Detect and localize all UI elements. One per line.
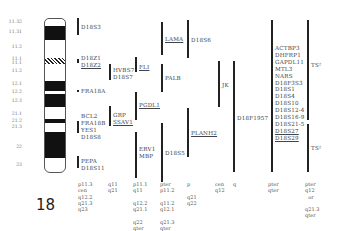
band-label: 12.3: [0, 98, 22, 103]
position-range-label: pter q12 or q21.3 qter: [305, 181, 319, 219]
locus-range-bar: [77, 121, 79, 133]
locus-range-bar: [135, 132, 137, 178]
position-range-label: cen q12: [215, 181, 225, 194]
gene-label: TS²: [311, 62, 321, 68]
position-range-label: q11 q21: [108, 181, 118, 194]
locus-range-bar: [161, 123, 163, 182]
position-range-label: q: [233, 181, 236, 187]
gene-label: D18S29: [275, 135, 299, 141]
locus-range-bar: [307, 20, 309, 120]
locus-point-marker: [77, 90, 79, 92]
position-range-label: p11.1 q11 q12.2 q21.1 q22 qter: [133, 181, 147, 231]
locus-range-bar: [77, 18, 79, 35]
band-q12-3: [45, 94, 65, 107]
gene-label: D18S10: [275, 100, 299, 106]
gene-label: PGDL1: [139, 102, 160, 108]
locus-range-bar: [161, 64, 163, 92]
gene-label: TS²: [311, 145, 321, 151]
gene-label: SSAV1: [113, 119, 133, 125]
gene-label: D18S7: [113, 74, 133, 80]
gene-label: MBP: [139, 153, 153, 159]
locus-range-bar: [77, 156, 79, 168]
band-label: 12.2: [0, 89, 22, 94]
locus-range-bar: [135, 57, 137, 72]
gene-label: D18S16-9: [275, 114, 305, 120]
gene-label: YES1: [81, 127, 97, 133]
locus-range-bar: [271, 20, 273, 172]
band-label: 21.2: [0, 118, 22, 123]
gene-label: D18S8: [81, 134, 101, 140]
gene-label: ERV1: [139, 146, 156, 152]
gene-label: ACTBP3: [275, 45, 300, 51]
position-range-label: pter qter: [268, 181, 279, 194]
gene-label: D18S6: [191, 37, 211, 43]
gene-label: GRP: [113, 112, 126, 118]
band-label: 23: [0, 162, 22, 167]
chromosome-18-ideogram: [44, 18, 66, 173]
position-range-label: p11.3 cen q12.2 q21.3 q23: [78, 181, 92, 212]
band-label: 11.1: [0, 60, 22, 65]
locus-range-bar: [233, 61, 235, 172]
band-label: 11.2: [0, 44, 22, 49]
band-label: 12.1: [0, 81, 22, 86]
gene-label: D18S3: [81, 24, 101, 30]
gene-label: FRA18B: [81, 120, 106, 126]
band-q22: [45, 132, 65, 158]
locus-range-bar: [77, 59, 79, 63]
gene-label: D18S4: [275, 93, 295, 99]
band-label: 21.1: [0, 111, 22, 116]
gene-label: FLI: [139, 64, 149, 70]
gene-label: GAPDL11: [275, 59, 304, 65]
locus-range-bar: [135, 92, 137, 120]
locus-range-bar: [109, 64, 111, 80]
gene-label: D18S21-5: [275, 121, 305, 127]
centromere: [45, 58, 65, 64]
gene-label: D18F3S3: [275, 80, 303, 86]
gene-label: D18S12-4: [275, 107, 305, 113]
band-label: 11.32: [0, 19, 22, 24]
locus-range-bar: [187, 20, 189, 58]
band-label: 11.2: [0, 68, 22, 73]
gene-label: D18S11: [81, 165, 105, 171]
locus-range-bar: [218, 61, 220, 107]
band-q21-2: [45, 119, 65, 123]
locus-range-bar: [109, 106, 111, 126]
band-label: 22: [0, 144, 22, 149]
gene-label: BCL2: [81, 113, 98, 119]
gene-label: FRA18A: [81, 88, 106, 94]
band-q12-1: [45, 81, 65, 91]
gene-label: PALB: [165, 75, 181, 81]
locus-range-bar: [307, 124, 309, 172]
band-label: 21.3: [0, 124, 22, 129]
locus-range-bar: [161, 22, 163, 55]
gene-label: LAMA: [165, 36, 183, 42]
position-range-label: p q21 q22: [187, 181, 197, 206]
gene-label: D18Z2: [81, 62, 101, 68]
band-label: 11.31: [0, 29, 22, 34]
gene-label: D18S1: [275, 86, 295, 92]
gene-label: MTL3: [275, 66, 293, 72]
gene-label: PEPA: [81, 158, 97, 164]
gene-label: D18S5: [165, 150, 185, 156]
gene-label: NARS: [275, 73, 293, 79]
gene-label: DHFRP1: [275, 52, 301, 58]
locus-range-bar: [187, 108, 189, 157]
position-range-label: pter p11.2 q11.2 q12.1 q21.3 qter: [160, 181, 174, 231]
gene-label: HVBS7: [113, 67, 134, 73]
chromosome-number: 18: [36, 196, 55, 214]
gene-label: JK: [222, 82, 229, 88]
gene-label: D18F1957: [237, 115, 268, 121]
gene-label: D18Z1: [81, 55, 101, 61]
band-p11-31: [45, 26, 65, 40]
gene-label: D18S27: [275, 128, 299, 134]
gene-label: PLANH2: [191, 130, 217, 136]
